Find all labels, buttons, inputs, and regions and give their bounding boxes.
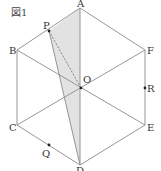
label-d: D (76, 165, 84, 171)
label-a: A (76, 0, 85, 9)
label-b: B (9, 45, 16, 56)
label-f: F (147, 45, 154, 56)
label-o: O (83, 74, 91, 85)
label-r: R (147, 83, 155, 94)
hexagon-outline (17, 8, 145, 165)
label-q: Q (42, 148, 50, 159)
figure-title: 図1 (11, 7, 27, 18)
point-o-dot (80, 87, 83, 90)
label-e: E (147, 122, 154, 133)
hexagon-figure: 図1 A B C D E F O P Q R (0, 0, 161, 171)
shaded-triangle-apd (49, 8, 80, 165)
label-p: P (43, 20, 50, 31)
point-q-dot (48, 144, 51, 147)
label-c: C (9, 122, 17, 133)
point-r-dot (144, 87, 147, 90)
